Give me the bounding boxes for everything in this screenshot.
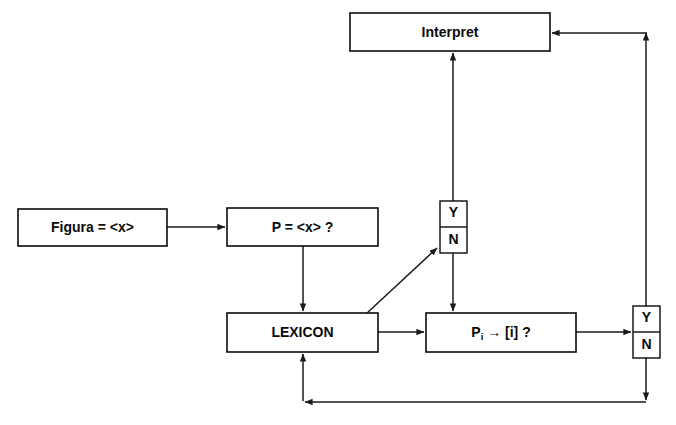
node-lexicon-label: LEXICON: [271, 324, 333, 340]
decision-right-yes-label: Y: [642, 309, 652, 325]
decision-top-yes-label: Y: [449, 204, 459, 220]
node-p-index[interactable]: Pi → [i] ?: [426, 313, 576, 352]
decision-top-no-label: N: [448, 231, 458, 247]
node-lexicon[interactable]: LEXICON: [227, 313, 378, 352]
nodes-layer: Interpret Figura = <x> P = <x> ? LEXICON: [18, 13, 660, 358]
node-figura-label: Figura = <x>: [51, 219, 134, 235]
decision-right-no-label: N: [641, 336, 651, 352]
node-p-index-rest: → [i] ?: [483, 324, 530, 340]
node-p-index-base: P: [471, 324, 480, 340]
node-figura[interactable]: Figura = <x>: [18, 209, 167, 246]
node-decision-top[interactable]: Y N: [440, 201, 467, 253]
diagram-canvas: Interpret Figura = <x> P = <x> ? LEXICON: [0, 0, 676, 425]
node-p-equals[interactable]: P = <x> ?: [227, 208, 378, 246]
node-p-index-label: Pi → [i] ?: [471, 324, 530, 342]
node-interpret-label: Interpret: [422, 24, 479, 40]
edge-lexicon-to-decision-top: [366, 248, 437, 314]
node-interpret[interactable]: Interpret: [350, 13, 550, 51]
node-p-equals-label: P = <x> ?: [272, 219, 334, 235]
flowchart-diagram: Interpret Figura = <x> P = <x> ? LEXICON: [0, 0, 676, 425]
node-decision-right[interactable]: Y N: [633, 306, 660, 358]
